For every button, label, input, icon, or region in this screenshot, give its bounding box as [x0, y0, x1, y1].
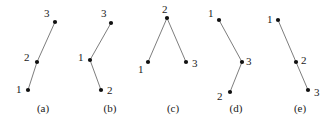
edge-e-1: [278, 20, 296, 62]
vertex-label-d-1: 1: [208, 8, 214, 19]
vertex-label-c-2: 2: [162, 4, 168, 15]
vertex-dot-b-3: [109, 21, 113, 25]
vertex-dot-c-1: [146, 60, 150, 64]
vertex-label-a-3: 3: [44, 8, 50, 19]
vertex-label-c-3: 3: [192, 58, 198, 69]
vertex-label-e-2: 2: [301, 55, 307, 66]
vertex-label-b-3: 3: [101, 8, 107, 19]
panel-caption-e: (e): [270, 103, 330, 114]
vertex-label-a-2: 2: [24, 52, 30, 63]
vertex-dot-a-1: [26, 88, 30, 92]
vertex-label-b-2: 2: [107, 85, 113, 96]
panel-caption-c: (c): [143, 103, 203, 114]
vertex-dot-e-1: [276, 18, 280, 22]
vertex-dot-b-2: [99, 88, 103, 92]
edges-layer: [28, 18, 308, 92]
vertex-label-c-1: 1: [138, 64, 144, 75]
vertex-label-e-1: 1: [267, 14, 273, 25]
vertex-dot-d-2: [228, 90, 232, 94]
edge-c-1: [148, 18, 167, 62]
vertex-label-b-1: 1: [78, 52, 84, 63]
vertex-label-d-2: 2: [217, 91, 223, 102]
vertex-dot-b-1: [88, 58, 92, 62]
vertex-dot-d-1: [217, 18, 221, 22]
edge-d-2: [230, 62, 242, 92]
vertex-dot-a-2: [35, 60, 39, 64]
vertex-label-d-3: 3: [246, 56, 252, 67]
vertex-dot-c-3: [184, 60, 188, 64]
edge-b-1: [90, 23, 111, 60]
edge-a-2: [37, 22, 55, 62]
edge-d-1: [219, 20, 242, 62]
vertex-dot-a-3: [53, 20, 57, 24]
vertex-dot-c-2: [165, 16, 169, 20]
dots-layer: [26, 16, 310, 94]
figure-container: 123123123123123 (a)(b)(c)(d)(e): [0, 0, 332, 127]
panel-caption-b: (b): [80, 103, 140, 114]
panel-caption-d: (d): [206, 103, 266, 114]
edge-c-2: [167, 18, 186, 62]
edge-b-2: [90, 60, 101, 90]
vertex-label-e-3: 3: [314, 87, 320, 98]
vertex-dot-e-2: [294, 60, 298, 64]
vertex-label-a-1: 1: [16, 84, 22, 95]
edge-e-2: [296, 62, 308, 90]
edge-a-1: [28, 62, 37, 90]
vertex-dot-e-3: [306, 88, 310, 92]
vertex-dot-d-3: [240, 60, 244, 64]
panel-caption-a: (a): [13, 103, 73, 114]
